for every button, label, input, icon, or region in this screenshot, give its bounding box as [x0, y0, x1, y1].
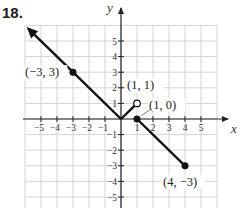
y-tick-label: −1: [107, 130, 117, 140]
point-label: (−3, 3): [25, 65, 59, 79]
closed-point-marker: [182, 162, 189, 169]
y-tick-label: −4: [107, 177, 117, 187]
y-tick-label: −5: [107, 193, 117, 203]
y-tick-label: −2: [107, 146, 117, 156]
piecewise-graph: xy −5−4−3−2−112345−5−4−3−2−112345 (−3, 3…: [0, 0, 242, 208]
x-tick-label: −3: [66, 123, 76, 133]
x-axis-label: x: [230, 121, 237, 136]
x-tick-label: −5: [34, 123, 44, 133]
closed-point-marker: [134, 116, 141, 123]
closed-point-marker: [70, 69, 77, 76]
y-tick-label: 5: [112, 37, 117, 47]
y-tick-label: 4: [112, 52, 117, 62]
point-label: (1, 0): [149, 98, 176, 112]
y-tick-label: −3: [107, 161, 117, 171]
y-tick-label: 3: [112, 68, 117, 78]
x-tick-label: 1: [135, 123, 140, 133]
graph-piece-3: [137, 119, 185, 166]
y-axis-label: y: [105, 0, 113, 15]
y-tick-label: 2: [112, 83, 117, 93]
x-tick-label: 4: [183, 123, 188, 133]
point-label: (1, 1): [127, 78, 154, 92]
y-tick-label: 1: [112, 99, 117, 109]
label-leader-line: [141, 109, 151, 116]
x-tick-label: −4: [50, 123, 60, 133]
open-point-marker: [134, 100, 141, 107]
x-tick-label: −2: [82, 123, 92, 133]
x-tick-label: 3: [167, 123, 172, 133]
x-tick-label: 5: [199, 123, 204, 133]
point-label: (4, −3): [163, 175, 197, 189]
